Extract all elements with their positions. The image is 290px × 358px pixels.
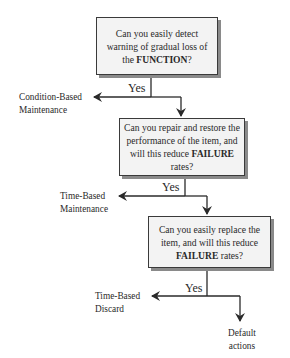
decision-text: Can you repair and restore the performan…	[124, 121, 240, 173]
outcome-time-based-discard: Time-Based Discard	[95, 290, 140, 315]
decision-box-replace-item: Can you easily replace the item, and wil…	[148, 216, 271, 268]
outcome-condition-based-maintenance: Condition-Based Maintenance	[19, 91, 82, 116]
decision-text: Can you easily replace the item, and wil…	[153, 223, 266, 262]
decision-box-repair-restore: Can you repair and restore the performan…	[119, 118, 245, 176]
outcome-default-actions: Default actions	[228, 327, 256, 352]
decision-box-detect-function-loss: Can you easily detect warning of gradual…	[96, 17, 218, 75]
outcome-time-based-maintenance: Time-Based Maintenance	[60, 190, 108, 215]
yes-label-q2: Yes	[162, 180, 179, 195]
yes-label-q3: Yes	[185, 281, 202, 296]
decision-text: Can you easily detect warning of gradual…	[101, 27, 213, 66]
yes-label-q1: Yes	[128, 81, 145, 96]
